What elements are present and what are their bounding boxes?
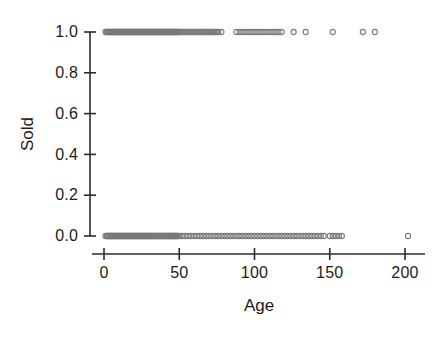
data-point xyxy=(330,29,335,34)
y-axis-title: Sold xyxy=(18,117,37,151)
y-tick-label: 0.8 xyxy=(55,64,78,81)
y-tick-label: 1.0 xyxy=(55,23,78,40)
data-point xyxy=(405,233,410,238)
x-tick-label: 100 xyxy=(241,264,268,281)
ticks-group xyxy=(84,32,405,260)
tick-labels-group: 0.00.20.40.60.81.0050100150200 xyxy=(55,23,418,281)
x-tick-label: 150 xyxy=(316,264,343,281)
y-tick-label: 0.6 xyxy=(55,105,78,122)
data-point xyxy=(372,29,377,34)
scatter-plot-figure: 0.00.20.40.60.81.0050100150200 Age Sold xyxy=(0,0,445,337)
x-tick-label: 200 xyxy=(391,264,418,281)
x-tick-label: 50 xyxy=(170,264,188,281)
data-point xyxy=(360,29,365,34)
data-points-group xyxy=(103,29,411,238)
data-point xyxy=(303,29,308,34)
data-point xyxy=(291,29,296,34)
plot-canvas: 0.00.20.40.60.81.0050100150200 Age Sold xyxy=(0,0,445,337)
y-tick-label: 0.2 xyxy=(55,186,78,203)
x-tick-label: 0 xyxy=(99,264,108,281)
y-tick-label: 0.4 xyxy=(55,146,78,163)
axes-group xyxy=(90,32,425,254)
x-axis-title: Age xyxy=(244,296,274,315)
y-tick-label: 0.0 xyxy=(55,227,78,244)
